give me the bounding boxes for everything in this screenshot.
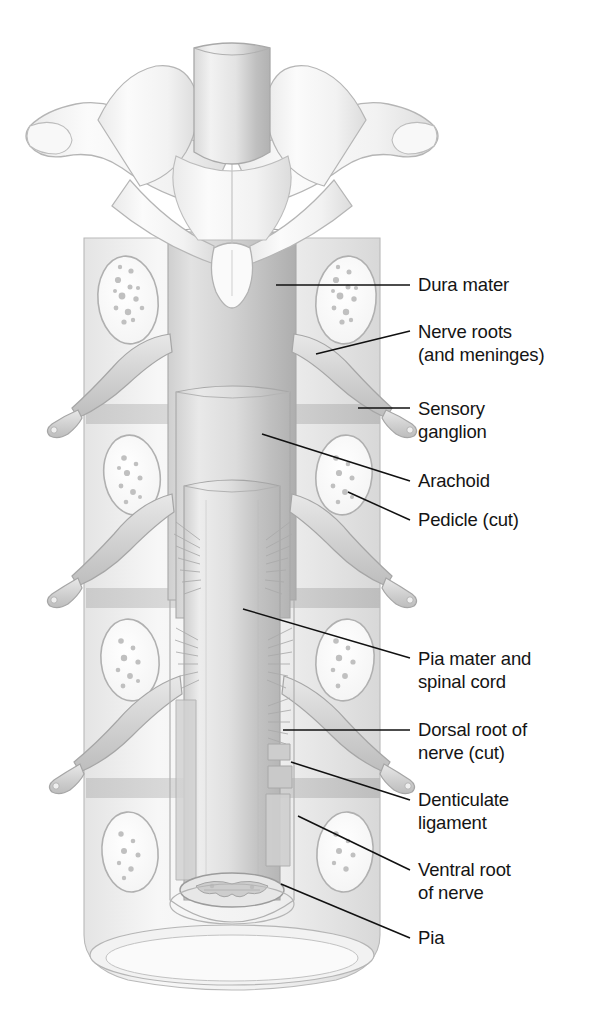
label-ventral-root-of-nerve: Ventral root of nerve [418, 859, 516, 903]
label-pedicle-cut: Pedicle (cut) [418, 509, 519, 530]
label-dura-mater: Dura mater [418, 274, 509, 295]
label-pia: Pia [418, 927, 445, 948]
spinal-cord-illustration: Dura mater Nerve roots (and meninges) Se… [0, 0, 596, 1022]
label-sensory-ganglion: Sensory ganglion [418, 398, 490, 442]
spinal-cord-stump-top [194, 43, 270, 164]
label-callouts: Dura mater Nerve roots (and meninges) Se… [418, 274, 544, 948]
label-arachoid: Arachoid [418, 470, 490, 491]
label-dorsal-root-of-nerve: Dorsal root of nerve (cut) [418, 719, 532, 763]
label-denticulate-ligament: Denticulate ligament [418, 789, 514, 833]
label-pia-mater-and-spinal-cord: Pia mater and spinal cord [418, 648, 536, 692]
label-nerve-roots: Nerve roots (and meninges) [418, 321, 544, 365]
anatomical-figure: Dura mater Nerve roots (and meninges) Se… [0, 0, 596, 1022]
